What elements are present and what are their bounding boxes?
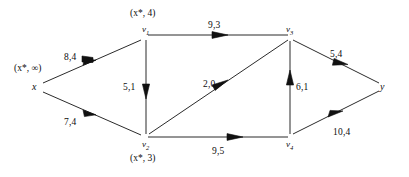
node-label-v4: v4 (286, 139, 293, 151)
edge-weight-x-v1: 8,4 (64, 52, 76, 62)
edge-v1-v3 (148, 32, 288, 39)
edge-weight-v2-v3: 2,0 (203, 79, 215, 89)
edge-weight-v1-v2: 5,1 (123, 82, 135, 92)
node-tag-x: (x*, ∞) (14, 63, 41, 73)
edge-x-v1 (43, 40, 141, 83)
node-label-v3: v3 (286, 24, 293, 36)
edge-v4-v3 (286, 41, 293, 134)
node-tag-v2: (x*, 3) (130, 153, 155, 163)
edge-weight-v4-y: 10,4 (333, 127, 350, 137)
edge-x-v2 (43, 92, 141, 135)
edge-weight-v2-v4: 9,5 (212, 146, 224, 156)
node-label-y: y (380, 81, 384, 92)
edge-v2-v4 (148, 134, 288, 141)
edge-weight-x-v2: 7,4 (64, 117, 76, 127)
edge-weight-v4-v3: 6,1 (296, 82, 308, 92)
node-tag-v1: (x*, 4) (130, 8, 155, 18)
edge-weight-v1-v3: 9,3 (208, 20, 220, 30)
edge-v2-v3 (149, 40, 288, 134)
diagram-canvas: x v1 v2 v3 v4 y (x*, ∞) (x*, 4) (x*, 3) … (0, 0, 409, 177)
edge-v3-y (293, 40, 379, 83)
node-label-x: x (32, 81, 36, 92)
edge-v1-v2 (142, 40, 149, 134)
node-label-v1: v1 (142, 24, 149, 36)
edge-weight-v3-y: 5,4 (330, 49, 342, 59)
node-label-v2: v2 (142, 139, 149, 151)
